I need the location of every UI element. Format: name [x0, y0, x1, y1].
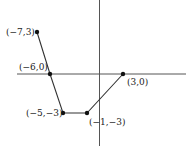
label-neg1-neg3: (−1,−3): [89, 117, 125, 127]
label-neg5-neg3: (−5,−3): [26, 108, 62, 118]
point-3-0: [121, 72, 125, 76]
label-neg7-3: (−7,3): [6, 27, 35, 37]
point-neg1-neg3: [85, 111, 89, 115]
label-neg6-0: (−6,0): [19, 62, 48, 72]
point-neg6-0: [48, 72, 52, 76]
graph-figure: (−7,3) (−6,0) (−5,−3) (−1,−3) (3,0): [0, 0, 186, 146]
point-neg7-3: [35, 30, 39, 34]
label-3-0: (3,0): [127, 77, 148, 87]
